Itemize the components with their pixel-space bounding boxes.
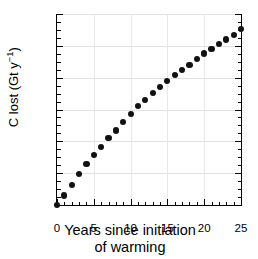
y-axis-title-close: ): [6, 47, 21, 51]
y-axis-minor-tick: [57, 197, 61, 198]
data-point: [120, 119, 126, 125]
y-axis-minor-tick: [57, 157, 61, 158]
data-point: [83, 161, 89, 167]
gridline-horizontal: [57, 78, 241, 79]
y-axis-minor-tick: [57, 38, 61, 39]
x-axis-minor-tick: [123, 202, 124, 206]
data-point: [135, 103, 141, 109]
y-axis-right-major-tick: [235, 141, 241, 142]
y-axis-major-tick: [57, 110, 63, 111]
gridline-vertical: [131, 14, 132, 205]
x-axis-minor-tick: [64, 202, 65, 206]
y-axis-right-minor-tick: [238, 62, 242, 63]
y-axis-minor-tick: [57, 165, 61, 166]
y-axis-major-tick: [57, 14, 63, 15]
data-point: [172, 72, 178, 78]
y-axis-major-tick: [57, 78, 63, 79]
data-point: [157, 84, 163, 90]
data-point: [150, 90, 156, 96]
x-axis-major-tick: [167, 199, 168, 205]
figure-panel: 00.10.20.30.40.50.6 0510152025 C lost (G…: [0, 0, 258, 259]
y-axis-title-text: C lost (Gt y: [6, 62, 21, 127]
y-axis-minor-tick: [57, 22, 61, 23]
y-axis-right-minor-tick: [238, 70, 242, 71]
x-axis-minor-tick: [138, 202, 139, 206]
x-axis-minor-tick: [153, 202, 154, 206]
y-axis-right-minor-tick: [238, 133, 242, 134]
y-axis-right-major-tick: [235, 110, 241, 111]
data-point: [164, 78, 170, 84]
x-axis-minor-tick: [160, 202, 161, 206]
y-axis-minor-tick: [57, 117, 61, 118]
x-axis-minor-tick: [79, 202, 80, 206]
data-point: [76, 171, 82, 177]
y-axis-minor-tick: [57, 30, 61, 31]
data-point: [91, 152, 97, 158]
y-axis-right-minor-tick: [238, 38, 242, 39]
x-axis-minor-tick: [116, 202, 117, 206]
y-axis-minor-tick: [57, 125, 61, 126]
y-axis-right-minor-tick: [238, 54, 242, 55]
data-point: [61, 192, 67, 198]
x-axis-title-line2: of warming: [30, 239, 230, 256]
y-axis-right-minor-tick: [238, 86, 242, 87]
y-axis-minor-tick: [57, 189, 61, 190]
plot-area: 00.10.20.30.40.50.6 0510152025: [56, 14, 242, 206]
x-axis-minor-tick: [86, 202, 87, 206]
y-axis-right-minor-tick: [238, 157, 242, 158]
y-axis-major-tick: [57, 46, 63, 47]
y-axis-right-major-tick: [235, 205, 241, 206]
y-axis-minor-tick: [57, 133, 61, 134]
y-axis-minor-tick: [57, 70, 61, 71]
y-axis-title: C lost (Gt y−1): [3, 7, 21, 167]
gridline-horizontal: [57, 14, 241, 15]
x-axis-minor-tick: [72, 202, 73, 206]
y-axis-minor-tick: [57, 94, 61, 95]
x-axis-minor-tick: [145, 202, 146, 206]
y-axis-right-minor-tick: [238, 125, 242, 126]
x-axis-minor-tick: [101, 202, 102, 206]
x-axis-minor-tick: [175, 202, 176, 206]
gridline-vertical: [167, 14, 168, 205]
gridline-vertical: [204, 14, 205, 205]
y-axis-right-minor-tick: [238, 165, 242, 166]
y-axis-right-minor-tick: [238, 197, 242, 198]
data-point: [231, 32, 237, 38]
x-axis-minor-tick: [212, 202, 213, 206]
data-point: [98, 144, 104, 150]
x-axis-major-tick: [131, 199, 132, 205]
y-axis-minor-tick: [57, 149, 61, 150]
y-axis-minor-tick: [57, 102, 61, 103]
x-axis-major-tick: [204, 199, 205, 205]
y-axis-title-exponent: −1: [5, 52, 15, 63]
data-point: [208, 46, 214, 52]
y-axis-minor-tick: [57, 54, 61, 55]
data-point: [223, 36, 229, 42]
x-axis-title: Years since initiation of warming: [30, 222, 230, 256]
data-point: [142, 97, 148, 103]
data-point: [186, 62, 192, 68]
x-axis-minor-tick: [189, 202, 190, 206]
y-axis-right-minor-tick: [238, 117, 242, 118]
data-point: [69, 182, 75, 188]
gridline-vertical: [94, 14, 95, 205]
data-point: [179, 67, 185, 73]
x-axis-minor-tick: [197, 202, 198, 206]
y-axis-major-tick: [57, 173, 63, 174]
x-axis-minor-tick: [109, 202, 110, 206]
y-axis-right-major-tick: [235, 46, 241, 47]
x-axis-minor-tick: [219, 202, 220, 206]
y-axis-minor-tick: [57, 181, 61, 182]
y-axis-right-minor-tick: [238, 94, 242, 95]
data-point: [201, 50, 207, 56]
x-axis-title-line1: Years since initiation: [30, 222, 230, 239]
x-axis-minor-tick: [226, 202, 227, 206]
y-axis-major-tick: [57, 141, 63, 142]
y-axis-right-minor-tick: [238, 22, 242, 23]
y-axis-right-major-tick: [235, 173, 241, 174]
x-axis-minor-tick: [182, 202, 183, 206]
y-axis-right-minor-tick: [238, 149, 242, 150]
y-axis-right-major-tick: [235, 14, 241, 15]
x-axis-major-tick: [94, 199, 95, 205]
gridline-horizontal: [57, 141, 241, 142]
